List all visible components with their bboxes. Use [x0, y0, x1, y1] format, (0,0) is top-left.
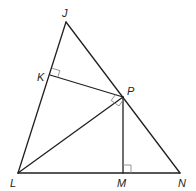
label-J: J [61, 7, 68, 19]
label-L: L [10, 177, 16, 189]
label-K: K [37, 71, 45, 83]
segment-KP [50, 75, 123, 97]
label-N: N [178, 177, 186, 189]
segment-JL [18, 22, 66, 173]
geometry-diagram: J K P L M N [0, 0, 196, 191]
right-angle-mark-M [123, 165, 131, 173]
segment-LP [18, 97, 123, 173]
label-M: M [117, 177, 127, 189]
label-P: P [127, 85, 135, 97]
